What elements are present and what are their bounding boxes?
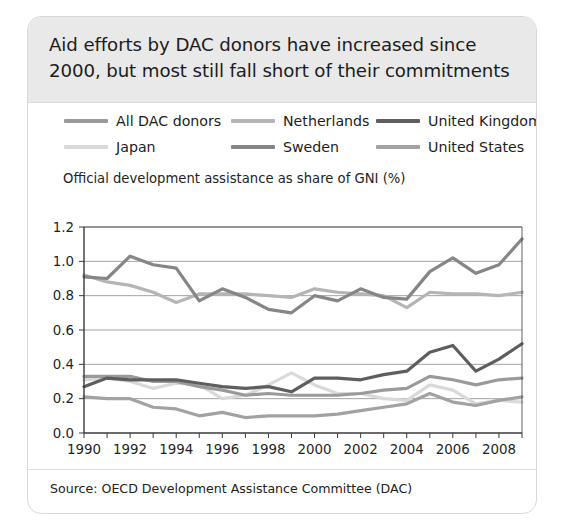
legend-label: United States (428, 139, 524, 155)
y-axis-tick-label: 0.2 (53, 391, 74, 406)
y-axis-tick-label: 1.2 (53, 220, 74, 235)
data-series-line (84, 344, 522, 392)
legend-swatch-icon (376, 145, 420, 149)
chart-plot-area: 0.00.20.40.60.81.01.2 199019921994199619… (28, 195, 536, 463)
legend-swatch-icon (231, 119, 275, 123)
gridlines-group (84, 227, 522, 399)
x-axis-tick-label: 2000 (297, 442, 331, 457)
source-divider (28, 469, 536, 470)
legend-swatch-icon (64, 145, 108, 149)
data-series-line (84, 373, 522, 404)
legend-item-sweden[interactable]: Sweden (231, 136, 339, 158)
chart-legend: All DAC donors Netherlands United Kingdo… (28, 103, 536, 165)
figure-card: Aid efforts by DAC donors have increased… (27, 16, 537, 514)
legend-swatch-icon (231, 145, 275, 149)
y-axis-tick-label: 0.0 (53, 426, 74, 441)
x-axis-tick-label: 2002 (344, 442, 378, 457)
legend-swatch-icon (64, 119, 108, 123)
legend-label: All DAC donors (116, 113, 221, 129)
data-series-group (84, 239, 522, 418)
legend-label: Sweden (283, 139, 339, 155)
x-axis-tick-label: 2004 (390, 442, 424, 457)
legend-item-japan[interactable]: Japan (64, 136, 156, 158)
line-chart-svg: 0.00.20.40.60.81.01.2 199019921994199619… (28, 195, 537, 463)
legend-label: Netherlands (283, 113, 369, 129)
legend-item-netherlands[interactable]: Netherlands (231, 110, 369, 132)
legend-item-united-states[interactable]: United States (376, 136, 524, 158)
data-series-line (84, 394, 522, 418)
legend-label: United Kingdom (428, 113, 537, 129)
source-note: Source: OECD Development Assistance Comm… (50, 481, 412, 496)
page-title: Aid efforts by DAC donors have increased… (49, 32, 522, 84)
legend-row: All DAC donors Netherlands United Kingdo… (28, 110, 536, 136)
legend-item-united-kingdom[interactable]: United Kingdom (376, 110, 537, 132)
x-axis-tick-label: 1992 (113, 442, 147, 457)
x-axis-tick-label: 2008 (482, 442, 516, 457)
legend-swatch-icon (376, 119, 420, 123)
legend-row: Japan Sweden United States (28, 136, 536, 162)
x-axis-ticks-group: 1990199219941996199820002002200420062008 (67, 433, 522, 457)
title-band: Aid efforts by DAC donors have increased… (28, 17, 536, 103)
y-axis-ticks-group: 0.00.20.40.60.81.01.2 (53, 220, 84, 441)
x-axis-tick-label: 1996 (205, 442, 239, 457)
legend-item-all-dac-donors[interactable]: All DAC donors (64, 110, 221, 132)
y-axis-tick-label: 0.6 (53, 323, 74, 338)
y-axis-tick-label: 0.4 (53, 357, 74, 372)
chart-axis-title: Official development assistance as share… (63, 171, 405, 186)
x-axis-tick-label: 1994 (159, 442, 193, 457)
x-axis-tick-label: 1990 (67, 442, 101, 457)
legend-label: Japan (116, 139, 156, 155)
data-series-line (84, 239, 522, 313)
y-axis-tick-label: 0.8 (53, 288, 74, 303)
x-axis-tick-label: 2006 (436, 442, 470, 457)
y-axis-tick-label: 1.0 (53, 254, 74, 269)
x-axis-tick-label: 1998 (251, 442, 285, 457)
